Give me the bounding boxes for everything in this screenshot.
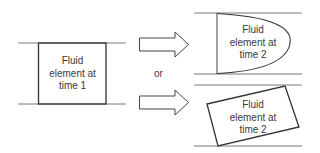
- left-label-line3: time 1: [42, 80, 103, 93]
- left-element-label: Fluid element at time 1: [42, 55, 103, 93]
- arrow-right-upper-icon: [140, 32, 189, 57]
- tr-label-line1: Fluid: [222, 24, 284, 37]
- br-label-line3: time 2: [222, 124, 284, 137]
- left-label-line2: element at: [42, 68, 103, 81]
- arrow-right-lower-icon: [140, 90, 189, 115]
- or-label: or: [154, 68, 163, 79]
- left-label-line1: Fluid: [42, 55, 103, 68]
- bottom-right-element-label: Fluid element at time 2: [222, 99, 284, 137]
- br-label-line1: Fluid: [222, 99, 284, 112]
- top-right-element-label: Fluid element at time 2: [222, 24, 284, 62]
- br-label-line2: element at: [222, 112, 284, 125]
- tr-label-line2: element at: [222, 37, 284, 50]
- tr-label-line3: time 2: [222, 49, 284, 62]
